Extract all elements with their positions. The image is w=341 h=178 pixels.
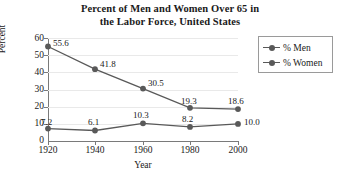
data-label-men-1980: 19.3	[181, 96, 197, 106]
y-tick-label-0: 0	[18, 135, 44, 145]
y-tick-label-20: 20	[18, 101, 44, 111]
x-tick-label-1940: 1940	[73, 145, 117, 155]
y-tick-label-30: 30	[18, 84, 44, 94]
y-tick-label-60: 60	[18, 33, 44, 43]
y-tick-label-40: 40	[18, 67, 44, 77]
data-label-men-1940: 41.8	[100, 59, 116, 69]
legend-label-women: % Women	[280, 58, 322, 68]
legend-item-men[interactable]: % Men	[263, 40, 332, 55]
chart-legend: % Men % Women	[258, 36, 333, 73]
data-label-women-1980: 8.2	[182, 114, 193, 124]
series-markers-women	[45, 120, 241, 133]
legend-marker-line-icon	[263, 43, 280, 52]
chart-title: Percent of Men and Women Over 65 in the …	[30, 3, 310, 28]
x-axis-title: Year	[48, 160, 238, 170]
series-line-men	[48, 47, 238, 110]
data-label-men-1960: 30.5	[148, 78, 164, 88]
x-tick-label-1920: 1920	[26, 145, 70, 155]
series-plot	[48, 38, 238, 141]
chart-figure: Percent of Men and Women Over 65 in the …	[0, 0, 341, 178]
legend-item-women[interactable]: % Women	[263, 55, 332, 70]
data-label-women-1960: 10.3	[133, 110, 149, 120]
data-label-men-2000: 18.6	[228, 96, 244, 106]
data-label-women-2000: 10.0	[244, 117, 260, 127]
x-tick-label-2000: 2000	[216, 145, 260, 155]
x-tick-label-1980: 1980	[168, 145, 212, 155]
y-axis-title: Percent	[0, 9, 7, 69]
series-markers-men	[45, 44, 241, 112]
chart-title-line-2: the Labor Force, United States	[30, 16, 310, 29]
legend-label-men: % Men	[280, 43, 311, 53]
x-tick-label-1960: 1960	[121, 145, 165, 155]
data-label-men-1920: 55.6	[53, 38, 69, 48]
y-tick-label-50: 50	[18, 50, 44, 60]
data-label-women-1920: 7.2	[41, 117, 52, 127]
legend-marker-line-icon	[263, 58, 280, 67]
plot-area: 55.6 41.8 30.5 19.3 18.6 7.2 6.1 10.3 8.…	[48, 38, 238, 141]
chart-title-line-1: Percent of Men and Women Over 65 in	[30, 3, 310, 16]
data-label-women-1940: 6.1	[88, 117, 99, 127]
